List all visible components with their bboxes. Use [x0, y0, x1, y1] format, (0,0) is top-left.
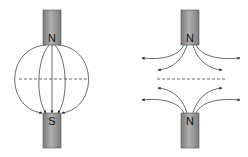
magnet-top-left: N — [43, 10, 61, 45]
pole-label-n: N — [186, 32, 194, 44]
left-diagram-unlike-poles: N S — [15, 10, 89, 148]
magnet-bottom-left: S — [43, 113, 61, 148]
field-lines-repel — [142, 45, 240, 113]
pole-label-s: S — [48, 115, 55, 127]
magnet-top-right: N — [181, 10, 199, 45]
magnet-bottom-right: N — [181, 113, 199, 148]
magnetic-field-diagram: N S N N — [0, 0, 248, 157]
pole-label-n: N — [186, 115, 194, 127]
right-diagram-like-poles: N N — [142, 10, 240, 148]
pole-label-n: N — [48, 32, 56, 44]
